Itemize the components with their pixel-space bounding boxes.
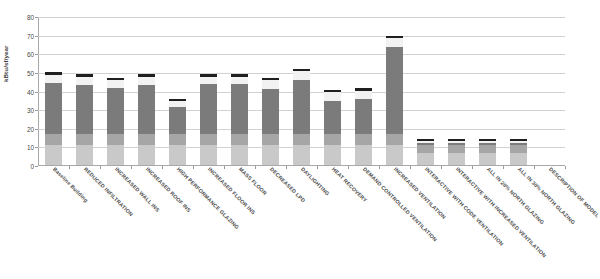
bar-segment	[138, 145, 155, 165]
bar-segment	[200, 145, 217, 165]
bar-segment	[386, 38, 403, 46]
x-tick-label: Baseline Building	[51, 166, 88, 203]
bar-segment	[417, 153, 434, 165]
y-tick-label: 50	[27, 69, 34, 76]
bar-segment	[169, 145, 186, 165]
bar-segment	[107, 88, 124, 135]
y-tick-label: 40	[27, 88, 34, 95]
bar-segment	[76, 85, 93, 134]
y-tick-label: 70	[27, 32, 34, 39]
x-tick-label: HEAT RECOVERY	[330, 166, 367, 203]
bar[interactable]	[386, 36, 403, 165]
bar[interactable]	[107, 78, 124, 165]
plot-area: 01020304050607080	[38, 17, 565, 166]
bar-segment	[293, 145, 310, 165]
bar[interactable]	[448, 139, 465, 165]
x-tick-label: ALL IN 30% NORTH GLAZING	[516, 166, 576, 226]
bar-segment	[293, 80, 310, 134]
bar[interactable]	[169, 99, 186, 165]
bar-segment	[138, 134, 155, 144]
y-tick-label: 20	[27, 125, 34, 132]
bar-segment	[262, 89, 279, 135]
bar-segment	[200, 84, 217, 134]
y-tick-label: 30	[27, 107, 34, 114]
bar-segment	[138, 85, 155, 134]
bar[interactable]	[231, 74, 248, 165]
bar-segment	[324, 134, 341, 144]
bar-segment	[107, 80, 124, 87]
bar-segment	[448, 145, 465, 153]
bar[interactable]	[138, 74, 155, 165]
bar[interactable]	[262, 78, 279, 165]
bar-segment	[107, 134, 124, 144]
bar-segment	[324, 145, 341, 165]
y-tick-mark	[35, 166, 38, 167]
x-tick-mark	[565, 166, 566, 169]
x-tick-label: ALL IN 20% NORTH GLAZING	[485, 166, 545, 226]
bar-segment	[386, 134, 403, 144]
bar-segment	[386, 145, 403, 165]
bar-segment	[355, 91, 372, 99]
bar-segment	[200, 134, 217, 144]
bar-segment	[324, 101, 341, 135]
bar-segment	[417, 145, 434, 153]
bar-segment	[293, 134, 310, 144]
bar-segment	[510, 145, 527, 153]
bar-segment	[355, 99, 372, 134]
bar-segment	[448, 153, 465, 165]
bar-segment	[76, 145, 93, 165]
y-tick-label: 10	[27, 144, 34, 151]
bar-segment	[262, 134, 279, 144]
bar-segment	[510, 153, 527, 165]
bar-segment	[231, 77, 248, 84]
bar-segment	[479, 153, 496, 165]
y-tick-label: 60	[27, 51, 34, 58]
bar-segment	[200, 77, 217, 84]
y-tick-label: 0	[30, 163, 34, 170]
bar[interactable]	[45, 72, 62, 165]
bar-segment	[45, 75, 62, 83]
x-tick-label: DESCRIPTION OF MODEL	[547, 166, 600, 219]
bar-segment	[76, 77, 93, 85]
bar[interactable]	[479, 139, 496, 165]
bar-segment	[262, 145, 279, 165]
y-tick-label: 80	[27, 14, 34, 21]
bar-segment	[45, 134, 62, 144]
bar-segment	[231, 134, 248, 144]
bar-segment	[76, 134, 93, 144]
x-axis-labels: Baseline BuildingREDUCED INFILTRATIONINC…	[38, 168, 565, 279]
bar-segment	[231, 145, 248, 165]
bar[interactable]	[293, 69, 310, 165]
x-tick-label: DAYLIGHTING	[299, 166, 330, 197]
x-tick-label: HIGH PERFORMANCE GLAZING	[175, 166, 239, 230]
bar[interactable]	[200, 74, 217, 165]
y-axis-title: kBtu/sf/year	[2, 0, 9, 82]
bar[interactable]	[324, 90, 341, 165]
bar-segment	[355, 145, 372, 165]
bar-segment	[45, 83, 62, 134]
x-tick-label: MASS FLOOR	[237, 166, 267, 196]
bar[interactable]	[417, 139, 434, 165]
bar-segment	[169, 107, 186, 134]
bar-segment	[479, 145, 496, 153]
bar-segment	[45, 145, 62, 165]
bar[interactable]	[510, 139, 527, 165]
bar-segment	[386, 47, 403, 135]
bar-segment	[324, 92, 341, 100]
bar-segment	[355, 134, 372, 144]
bar-segment	[107, 145, 124, 165]
bar-segment	[293, 71, 310, 80]
bar-segment	[169, 134, 186, 144]
bar-segment	[138, 77, 155, 85]
bars-layer	[38, 17, 565, 166]
bar[interactable]	[355, 88, 372, 165]
bar[interactable]	[76, 74, 93, 165]
x-tick-label: INCREASED VENTILATION	[392, 166, 446, 220]
bar-segment	[231, 84, 248, 134]
bar-segment	[262, 80, 279, 88]
